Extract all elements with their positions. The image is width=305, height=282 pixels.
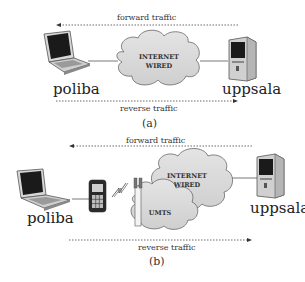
laptop-icon — [17, 169, 70, 211]
forward-traffic-label-a: forward traffic — [117, 13, 176, 22]
reverse-traffic-arrow-b — [69, 238, 252, 242]
desktop-tower-icon — [257, 154, 284, 198]
host-label-poliba-b: poliba — [27, 209, 74, 227]
host-label-uppsala-b: uppsala — [250, 199, 305, 217]
caption-a: (a) — [142, 117, 157, 130]
diagram-b — [17, 144, 284, 242]
forward-traffic-label-b: forward traffic — [126, 136, 185, 145]
mobile-phone-icon — [89, 180, 106, 212]
cloud-label-a: INTERNET WIRED — [134, 53, 184, 71]
reverse-traffic-arrow-a — [56, 99, 238, 103]
cloud-label-line2: WIRED — [134, 62, 184, 71]
reverse-traffic-label-b: reverse traffic — [138, 243, 196, 252]
reverse-traffic-label-a: reverse traffic — [120, 104, 178, 113]
wireless-signal-icon — [112, 183, 128, 197]
caption-b: (b) — [149, 255, 165, 268]
host-label-poliba-a: poliba — [53, 80, 100, 98]
umts-label: UMTS — [145, 209, 175, 218]
cloud-label-b: INTERNET WIRED — [162, 172, 212, 190]
cloud-label-line1: INTERNET — [134, 53, 184, 62]
laptop-icon — [44, 31, 90, 75]
host-label-uppsala-a: uppsala — [222, 80, 281, 98]
cloud-label-line2: WIRED — [162, 181, 212, 190]
desktop-tower-icon — [229, 37, 256, 81]
forward-traffic-arrow-a — [56, 23, 238, 27]
cloud-label-line1: INTERNET — [162, 172, 212, 181]
